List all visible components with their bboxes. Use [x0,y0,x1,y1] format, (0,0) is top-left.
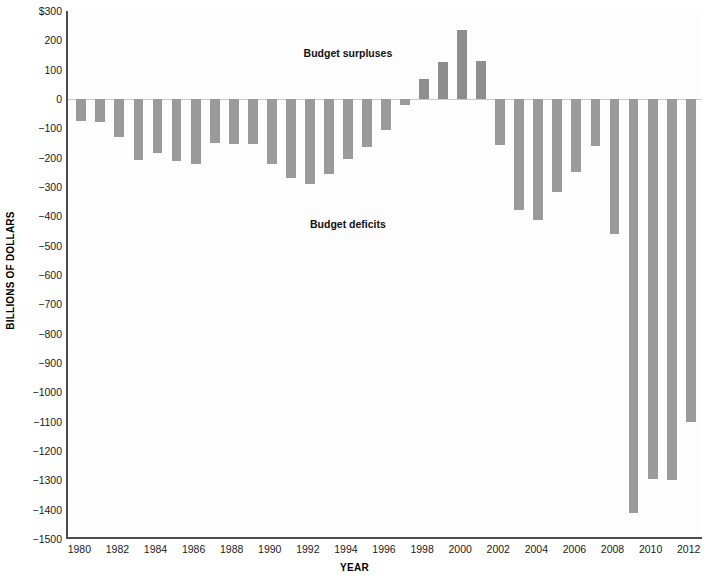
x-axis-tick: 2010 [639,543,662,555]
bar-2009 [629,99,639,513]
bar-2012 [686,99,696,422]
bar-1995 [362,99,372,147]
bar-2007 [591,99,601,146]
bar-1988 [229,99,239,144]
bar-1981 [95,99,105,122]
x-axis-title: YEAR [0,562,709,573]
x-axis-tick: 2004 [525,543,548,555]
x-axis-tick: 2012 [677,543,700,555]
bar-1991 [286,99,296,178]
y-axis-tick: −200 [0,152,62,164]
y-axis-tick: $300 [0,5,62,17]
bar-2003 [514,99,524,210]
bar-2006 [571,99,581,172]
chart-annotation: Budget surpluses [304,47,393,59]
x-axis-tick: 1986 [182,543,205,555]
x-axis-tick: 1994 [334,543,357,555]
bar-1990 [267,99,277,164]
y-axis-tick: 100 [0,64,62,76]
bar-1989 [248,99,258,144]
x-axis-tick: 1990 [258,543,281,555]
bar-1984 [153,99,163,153]
bar-1987 [210,99,220,143]
y-axis-tick: −600 [0,269,62,281]
y-axis-tick: −400 [0,210,62,222]
y-axis-tick: −100 [0,122,62,134]
y-axis-tick: −1000 [0,386,62,398]
x-axis-tick: 1988 [220,543,243,555]
bar-2000 [457,30,467,99]
x-axis-tick: 1998 [410,543,433,555]
bar-2011 [667,99,677,480]
x-axis-tick: 1984 [144,543,167,555]
bar-2005 [552,99,562,192]
y-axis-tick: 200 [0,34,62,46]
bar-1982 [114,99,124,137]
bar-1992 [305,99,315,184]
bar-1997 [400,99,410,105]
y-axis-tick: 0 [0,93,62,105]
y-axis-tick: −1200 [0,445,62,457]
x-axis-tick: 1992 [296,543,319,555]
x-axis-tick: 1982 [106,543,129,555]
x-axis-tick: 2006 [563,543,586,555]
y-axis-tick: −1300 [0,474,62,486]
y-axis-tick: −300 [0,181,62,193]
bar-1999 [438,62,448,99]
bar-2002 [495,99,505,145]
y-axis-tick: −700 [0,298,62,310]
y-axis-tick: −900 [0,357,62,369]
bar-1994 [343,99,353,159]
budget-deficit-bar-chart: BILLIONS OF DOLLARS $3002001000−100−200−… [0,0,709,582]
plot-frame: Budget surplusesBudget deficits [66,11,702,539]
bar-2001 [476,61,486,99]
bar-1993 [324,99,334,174]
y-axis-tick-labels: $3002001000−100−200−300−400−500−600−700−… [0,11,62,539]
x-axis-tick: 2000 [448,543,471,555]
y-axis-tick: −800 [0,328,62,340]
bar-2004 [533,99,543,220]
bar-2008 [610,99,620,234]
y-axis-tick: −500 [0,240,62,252]
bar-1980 [76,99,86,121]
bar-2010 [648,99,658,479]
x-axis-tick: 1996 [372,543,395,555]
x-axis-tick: 2008 [601,543,624,555]
bar-1998 [419,79,429,99]
bar-1996 [381,99,391,130]
y-axis-tick: −1500 [0,533,62,545]
plot-area: Budget surplusesBudget deficits [68,11,702,537]
bar-1985 [172,99,182,161]
x-axis-tick: 2002 [487,543,510,555]
y-axis-tick: −1100 [0,416,62,428]
x-axis-tick: 1980 [68,543,91,555]
y-axis-tick: −1400 [0,504,62,516]
x-axis-tick-labels: 1980198219841986198819901992199419961998… [66,543,702,559]
chart-annotation: Budget deficits [310,218,386,230]
bar-1983 [134,99,144,160]
bar-1986 [191,99,201,164]
